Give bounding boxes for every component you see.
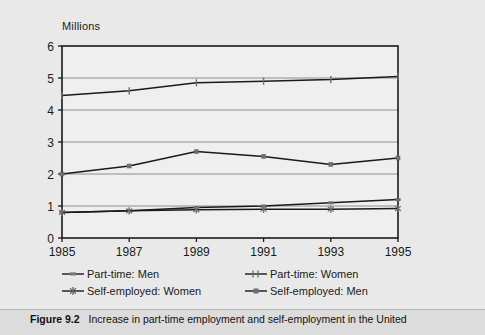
legend-marker-dash-icon (62, 269, 84, 279)
figure-caption: Figure 9.2Increase in part-time employme… (30, 313, 407, 325)
y-tick-label: 0 (47, 232, 54, 246)
legend-item-part-time-men[interactable]: Part-time: Men (62, 268, 239, 280)
legend-marker-square-icon (245, 286, 267, 296)
figure-caption-label: Figure 9.2 (30, 313, 80, 325)
y-tick-label: 5 (47, 72, 54, 86)
x-tick-label: 1985 (49, 245, 76, 259)
chart-legend: Part-time: Men Part-time: Women (62, 268, 422, 297)
x-tick-label: 1991 (250, 245, 277, 259)
x-tick-label: 1993 (317, 245, 344, 259)
legend-label: Self-employed: Women (87, 285, 201, 297)
legend-item-part-time-women[interactable]: Part-time: Women (245, 268, 422, 280)
legend-item-self-employed-men[interactable]: Self-employed: Men (245, 285, 422, 297)
legend-label: Part-time: Men (87, 268, 159, 280)
x-tick-label: 1995 (385, 245, 412, 259)
y-tick-label: 4 (47, 104, 54, 118)
x-tick-label: 1989 (183, 245, 210, 259)
y-tick-label: 2 (47, 168, 54, 182)
line-chart-plot: 0123456198519871989199119931995 (0, 0, 485, 265)
figure-caption-body: Increase in part-time employment and sel… (89, 313, 407, 325)
legend-marker-plus-icon (245, 269, 267, 279)
y-tick-label: 3 (47, 136, 54, 150)
x-tick-label: 1987 (116, 245, 143, 259)
chart-panel: Millions 0123456198519871989199119931995… (0, 0, 485, 309)
legend-label: Part-time: Women (270, 268, 358, 280)
y-tick-label: 1 (47, 200, 54, 214)
legend-label: Self-employed: Men (270, 285, 368, 297)
y-tick-label: 6 (47, 40, 54, 54)
legend-marker-star-icon (62, 286, 84, 296)
legend-item-self-employed-women[interactable]: Self-employed: Women (62, 285, 239, 297)
